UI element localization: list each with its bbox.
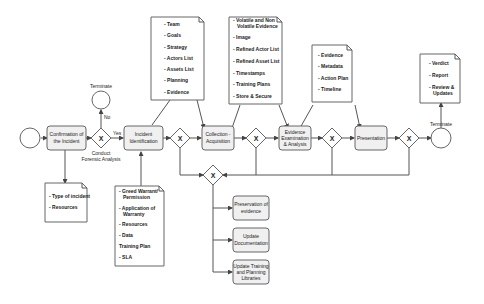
svg-text:- Evidence: - Evidence: [318, 52, 343, 58]
svg-text:Update: Update: [243, 233, 259, 239]
gateway-conduct-analysis[interactable]: X: [91, 128, 111, 148]
svg-text:- Resources: - Resources: [119, 221, 148, 227]
forensic-process-diagram: Confirmation of the Incident Incident Id…: [0, 0, 484, 304]
yes-label: Yes: [113, 130, 122, 136]
svg-text:Collection -: Collection -: [205, 131, 230, 137]
task-collection[interactable]: Collection - Acquisition: [202, 126, 234, 150]
svg-text:- Timestamps: - Timestamps: [233, 70, 265, 76]
svg-text:Libraries: Libraries: [241, 275, 261, 281]
end-event-right[interactable]: [431, 128, 451, 148]
svg-text:Training Plan: Training Plan: [119, 243, 150, 249]
svg-text:Warranty: Warranty: [123, 211, 145, 217]
svg-text:- Refined Asset List: - Refined Asset List: [233, 58, 280, 64]
svg-text:Identification: Identification: [129, 138, 157, 144]
gateway-after-collection[interactable]: X: [246, 128, 266, 148]
svg-text:Preservation of: Preservation of: [234, 201, 268, 207]
svg-text:X: X: [330, 135, 335, 142]
svg-text:- Store & Secure: - Store & Secure: [233, 93, 272, 99]
svg-text:- Resources: - Resources: [49, 204, 78, 210]
svg-text:- Verdict: - Verdict: [429, 60, 449, 66]
svg-text:- Strategy: - Strategy: [164, 44, 187, 50]
doc-identification-output: - Team - Goals - Strategy - Actors List …: [151, 17, 204, 100]
svg-text:- Timeline: - Timeline: [318, 86, 341, 92]
svg-text:X: X: [407, 135, 412, 142]
task-identification[interactable]: Incident Identification: [124, 126, 163, 150]
gateway-after-examination[interactable]: X: [322, 128, 342, 148]
svg-text:- Training Plans: - Training Plans: [233, 81, 270, 87]
svg-text:- Team: - Team: [164, 21, 180, 27]
svg-text:- Planning: - Planning: [164, 77, 188, 83]
task-update-documentation[interactable]: Update Documentation: [233, 228, 269, 252]
task-examination[interactable]: Evidence Examination & Analysis: [279, 126, 311, 150]
svg-text:- Assets List: - Assets List: [164, 66, 194, 72]
svg-text:- Action Plan: - Action Plan: [318, 75, 348, 81]
svg-text:evidence: evidence: [241, 208, 261, 214]
svg-text:Volatile Evidence: Volatile Evidence: [237, 23, 278, 29]
conduct-label-2: Forensic Analysis: [82, 156, 121, 162]
doc-final-output: - Verdict - Report - Review & Updates: [420, 54, 460, 103]
task-presentation[interactable]: Presentation: [355, 126, 387, 150]
svg-text:- Goals: - Goals: [164, 32, 181, 38]
svg-text:- Refined Actor List: - Refined Actor List: [233, 46, 279, 52]
svg-text:- Evidence: - Evidence: [164, 89, 189, 95]
svg-text:- Metadata: - Metadata: [318, 63, 343, 69]
gateway-after-identification[interactable]: X: [170, 128, 190, 148]
svg-text:Permission: Permission: [123, 194, 150, 200]
terminate-label-right: Terminate: [430, 121, 452, 127]
svg-text:the Incident: the Incident: [54, 138, 80, 144]
svg-text:X: X: [99, 135, 104, 142]
start-event[interactable]: [20, 128, 40, 148]
doc-identification-input: - Greed Warrant/ Permission - Applicatio…: [115, 186, 164, 266]
end-event-top[interactable]: [92, 91, 110, 109]
svg-text:- Type of incident: - Type of incident: [49, 193, 90, 199]
svg-text:Presentation: Presentation: [357, 135, 385, 141]
gateway-after-presentation[interactable]: X: [399, 128, 419, 148]
doc-collection-output: - Volatile and Non Volatile Evidence - I…: [229, 17, 282, 104]
svg-text:Acquisition: Acquisition: [206, 138, 230, 144]
terminate-label-top: Terminate: [90, 83, 112, 89]
svg-text:Confirmation of: Confirmation of: [50, 131, 85, 137]
doc-confirmation: - Type of incident - Resources: [45, 183, 90, 222]
doc-examination-output: - Evidence - Metadata - Action Plan - Ti…: [312, 45, 352, 102]
svg-text:X: X: [178, 135, 183, 142]
svg-text:Documentation: Documentation: [234, 240, 268, 246]
svg-text:Incident: Incident: [135, 131, 153, 137]
svg-text:- Actors List: - Actors List: [164, 55, 193, 61]
svg-text:- Data: - Data: [119, 232, 133, 238]
svg-text:Updates: Updates: [433, 90, 453, 96]
task-confirmation[interactable]: Confirmation of the Incident: [47, 126, 86, 150]
task-preservation[interactable]: Preservation of evidence: [233, 196, 269, 220]
svg-text:- SLA: - SLA: [119, 254, 132, 260]
svg-text:X: X: [211, 172, 216, 179]
svg-text:- Report: - Report: [429, 72, 449, 78]
svg-text:- Image: - Image: [233, 34, 251, 40]
task-update-training[interactable]: Update Training and Planning Libraries: [233, 260, 269, 284]
svg-text:& Analysis: & Analysis: [283, 141, 307, 147]
gateway-loop-back[interactable]: X: [203, 165, 223, 185]
no-label: No: [104, 114, 111, 120]
svg-text:X: X: [254, 135, 259, 142]
